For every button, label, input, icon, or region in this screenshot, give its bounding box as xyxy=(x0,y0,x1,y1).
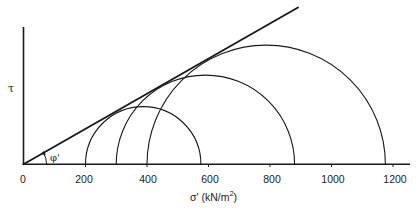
tick-label-1000: 1000 xyxy=(321,173,345,185)
mohr-circle-2 xyxy=(116,75,294,164)
x-axis-label-main: σ' (kN/m xyxy=(190,191,230,203)
y-axis-label: τ xyxy=(8,82,14,95)
x-axis-label-close: ) xyxy=(234,191,238,203)
tick-label-800: 800 xyxy=(263,173,281,185)
mohr-circle-3 xyxy=(147,45,385,164)
tick-label-0: 0 xyxy=(20,173,26,185)
failure-envelope-line xyxy=(24,8,299,165)
mohr-circles xyxy=(86,45,386,164)
angle-phi-label: φ' xyxy=(50,152,60,163)
tick-label-1200: 1200 xyxy=(383,173,407,185)
x-axis-label: σ' (kN/m2) xyxy=(190,189,237,203)
angle-phi-marker xyxy=(42,152,47,165)
tick-label-400: 400 xyxy=(139,173,157,185)
tick-label-200: 200 xyxy=(75,173,93,185)
x-axis-tick-labels: 0 200 400 600 800 1000 1200 xyxy=(20,173,407,185)
tick-label-600: 600 xyxy=(201,173,219,185)
axes xyxy=(23,27,410,165)
angle-arrowhead-icon xyxy=(42,152,46,155)
mohr-circle-diagram: 0 200 400 600 800 1000 1200 φ' τ σ' (kN/… xyxy=(0,0,419,212)
mohr-circle-1 xyxy=(86,107,201,165)
